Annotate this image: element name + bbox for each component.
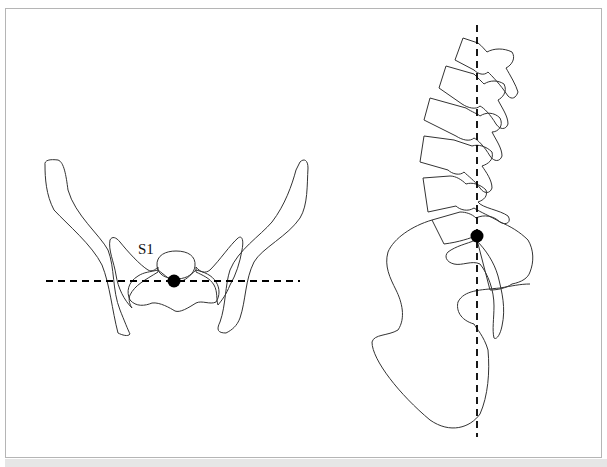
s1-center-marker-lateral [471,230,484,243]
right-ilium [218,160,308,333]
vertebra-l3 [424,98,502,161]
s1-center-marker [168,275,181,288]
lateral-spine-panel [372,25,533,437]
diagram-canvas: S1 [0,0,607,467]
frontal-pelvis-panel: S1 [45,160,308,336]
sacrum-lateral [432,212,533,290]
left-ilium [45,160,130,336]
s1-label: S1 [138,241,154,257]
vertebra-l5 [423,176,509,224]
vertebra-l1 [455,38,518,98]
s1-vertebral-body [157,251,195,279]
vertebra-l2 [439,66,508,129]
ilium-lateral [372,220,530,428]
sacral-tail [446,240,504,339]
right-ala [196,237,243,305]
